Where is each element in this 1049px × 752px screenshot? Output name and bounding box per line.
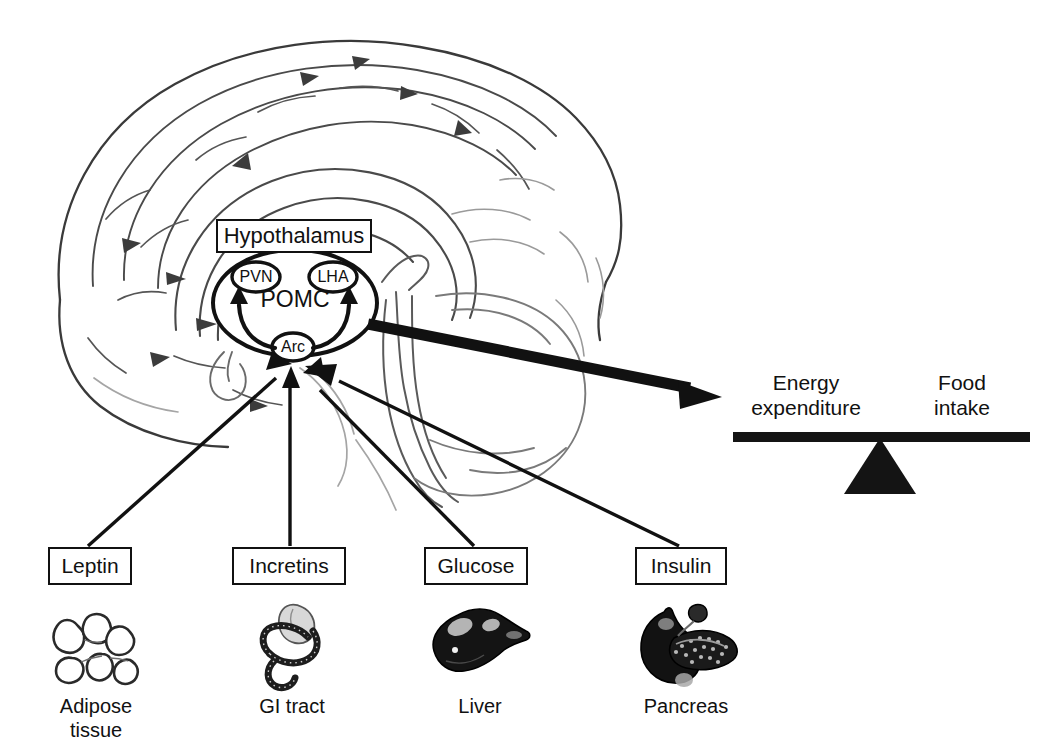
hypothalamus-box: Hypothalamus: [216, 219, 372, 253]
lha-label: LHA: [310, 268, 356, 286]
arc-label: Arc: [272, 338, 314, 356]
energy-balance-diagram: Hypothalamus PVN LHA Arc POMC Leptin Inc…: [0, 0, 1049, 752]
pvn-label: PVN: [233, 268, 279, 286]
balance-fulcrum: [844, 438, 916, 494]
hypothalamus-box-label: Hypothalamus: [224, 223, 365, 249]
balance-right-label: Food intake: [902, 371, 1022, 421]
pomc-label: POMC: [250, 286, 340, 313]
energy-balance-scale: [0, 0, 1049, 752]
balance-left-label: Energy expenditure: [736, 371, 876, 421]
